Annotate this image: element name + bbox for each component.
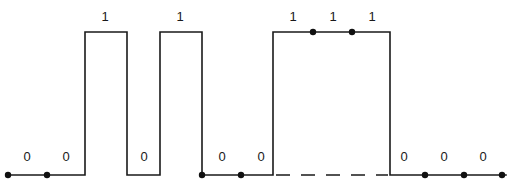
bit-label-low: 0 — [140, 149, 147, 164]
bit-label-low: 0 — [479, 149, 486, 164]
sample-dot — [422, 172, 428, 178]
bit-label-high: 1 — [329, 9, 336, 24]
sample-dot — [499, 172, 505, 178]
bit-label-low: 0 — [218, 149, 225, 164]
bit-label-high: 1 — [176, 9, 183, 24]
sample-dots-group — [5, 29, 505, 178]
sample-dot — [199, 172, 205, 178]
sample-dot — [5, 172, 11, 178]
sample-dot — [310, 29, 316, 35]
sample-dot — [461, 172, 467, 178]
bit-label-high: 1 — [101, 9, 108, 24]
bit-label-low: 0 — [440, 149, 447, 164]
bit-label-high: 1 — [368, 9, 375, 24]
waveform-canvas: 0 0 1 0 1 0 0 1 1 1 0 0 0 — [0, 0, 511, 196]
sample-dot — [349, 29, 355, 35]
bit-label-high: 1 — [289, 9, 296, 24]
bit-label-low: 0 — [23, 149, 30, 164]
sample-dot — [238, 172, 244, 178]
binary-waveform-figure: 0 0 1 0 1 0 0 1 1 1 0 0 0 — [0, 0, 511, 196]
sample-dot — [44, 172, 50, 178]
bit-label-low: 0 — [400, 149, 407, 164]
bit-label-low: 0 — [62, 149, 69, 164]
bit-label-low: 0 — [257, 149, 264, 164]
